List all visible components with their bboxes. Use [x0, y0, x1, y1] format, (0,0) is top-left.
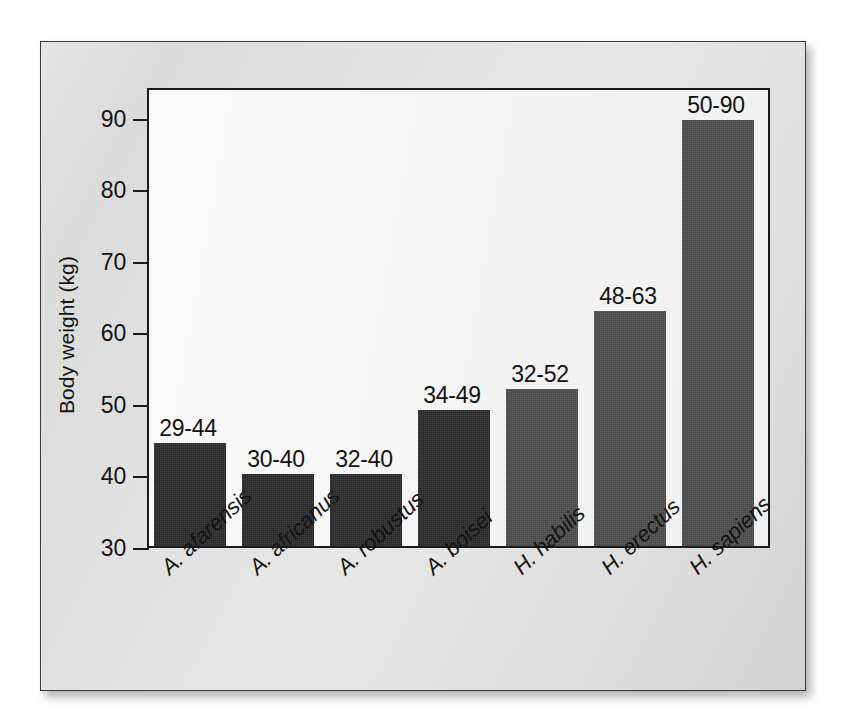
y-tick-label: 60	[78, 320, 126, 347]
y-tick-label: 40	[78, 463, 126, 490]
y-tick-mark	[133, 548, 149, 550]
y-tick-label: 70	[78, 248, 126, 275]
y-tick-label: 50	[78, 391, 126, 418]
bar-value-label: 29-44	[138, 415, 238, 442]
bar-chart: Body weight (kg) 30405060708090 29-4430-…	[40, 41, 806, 691]
plot-area	[147, 88, 770, 548]
bar-value-label: 34-49	[402, 382, 502, 409]
y-tick-label: 80	[78, 177, 126, 204]
bar-value-label: 32-40	[314, 446, 414, 473]
bar-value-label: 48-63	[578, 283, 678, 310]
y-axis-title: Body weight (kg)	[55, 205, 79, 465]
bar-value-label: 30-40	[226, 446, 326, 473]
y-tick-label: 30	[78, 535, 126, 562]
y-tick-label: 90	[78, 105, 126, 132]
bar-h-sapiens[interactable]	[682, 120, 754, 546]
bar-value-label: 32-52	[490, 361, 590, 388]
bar-value-label: 50-90	[666, 92, 766, 119]
